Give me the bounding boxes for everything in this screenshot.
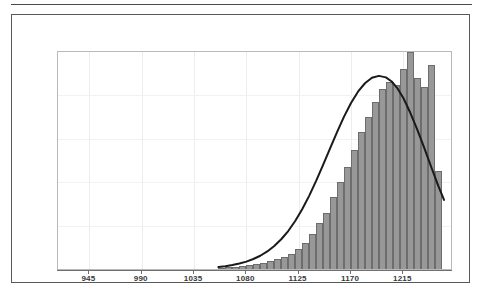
- x-tick-label: 945: [81, 274, 95, 283]
- chart-page: 94599010351080112511701215: [0, 0, 483, 297]
- x-tick-label: 1170: [341, 274, 359, 283]
- plot-area: [57, 51, 452, 270]
- x-tick-label: 1080: [236, 274, 255, 283]
- x-tick-label: 1035: [184, 274, 203, 283]
- normal-fit-curve-svg: [58, 52, 451, 269]
- figure-frame: 94599010351080112511701215: [11, 14, 470, 283]
- distribution-curve: [58, 52, 451, 269]
- x-tick-label: 1215: [393, 274, 412, 283]
- x-tick-label: 1125: [289, 274, 307, 283]
- x-axis: [57, 270, 452, 271]
- top-divider: [11, 4, 472, 5]
- x-tick-label: 990: [134, 274, 148, 283]
